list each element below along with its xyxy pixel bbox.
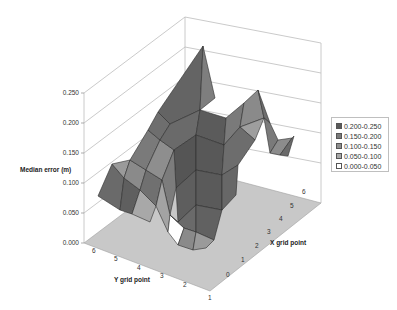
x-tick-0: 0 (226, 271, 230, 278)
z-tick-0.100: 0.100 (63, 179, 80, 186)
y-tick-1: 1 (208, 294, 212, 301)
x-tick-1: 1 (241, 256, 245, 263)
z-tick-0.200: 0.200 (63, 119, 80, 126)
y-tick-4: 4 (137, 264, 141, 271)
z-tick-0.150: 0.150 (63, 149, 80, 156)
legend-item: 0.000-0.050 (336, 161, 388, 171)
x-tick-4: 4 (279, 215, 283, 222)
z-tick-0.000: 0.000 (63, 239, 80, 246)
legend-swatch (336, 163, 342, 169)
legend-label: 0.050-0.100 (344, 153, 381, 160)
legend-label: 0.100-0.150 (344, 143, 381, 150)
x-tick-6: 6 (302, 188, 306, 195)
legend-swatch (336, 133, 342, 139)
z-axis-label: Median error (m) (20, 166, 71, 174)
legend-label: 0.000-0.050 (344, 163, 381, 170)
x-tick-3: 3 (267, 228, 271, 235)
y-tick-2: 2 (183, 281, 187, 288)
chart-legend: 0.200-0.250 0.150-0.200 0.100-0.150 0.05… (331, 117, 389, 172)
legend-item: 0.100-0.150 (336, 141, 388, 151)
y-tick-3: 3 (160, 272, 164, 279)
legend-swatch (336, 153, 342, 159)
x-tick-2: 2 (255, 242, 259, 249)
legend-swatch (336, 123, 342, 129)
z-axis: 0.250 0.200 0.150 0.100 0.050 0.000 Medi… (20, 89, 84, 246)
legend-item: 0.050-0.100 (336, 151, 388, 161)
z-tick-0.250: 0.250 (63, 89, 80, 96)
x-tick-5: 5 (290, 202, 294, 209)
legend-swatch (336, 143, 342, 149)
y-axis-label: Y grid point (114, 276, 151, 284)
x-axis-label: X grid point (270, 239, 307, 247)
z-tick-0.050: 0.050 (63, 209, 80, 216)
legend-label: 0.150-0.200 (344, 133, 381, 140)
legend-label: 0.200-0.250 (344, 123, 381, 130)
y-tick-5: 5 (114, 255, 118, 262)
legend-item: 0.150-0.200 (336, 131, 388, 141)
y-tick-6: 6 (92, 247, 96, 254)
legend-item: 0.200-0.250 (336, 121, 388, 131)
